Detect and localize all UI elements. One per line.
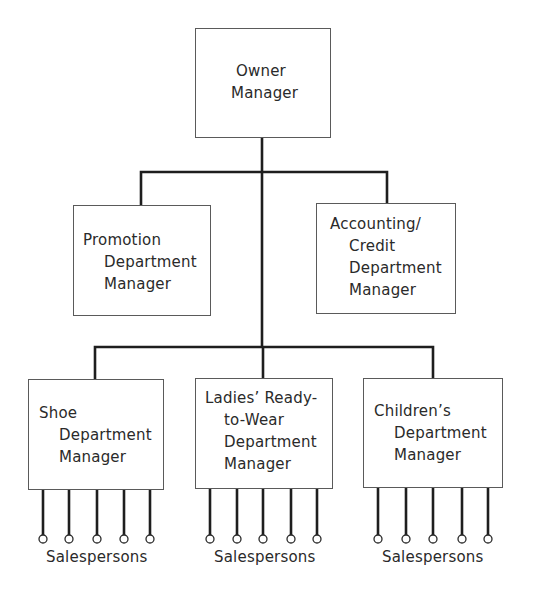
node-label-line: Promotion	[83, 229, 161, 251]
salespersons-label: Salespersons	[382, 548, 484, 566]
shoe-manager-box: Shoe Department Manager	[28, 379, 164, 490]
node-label-line: Manager	[394, 444, 461, 466]
node-label-line: Manager	[59, 446, 126, 468]
owner-manager-box: Owner Manager	[195, 28, 331, 138]
node-label-line: Credit	[349, 235, 395, 257]
node-label-line: Owner	[236, 60, 286, 82]
promotion-manager-box: Promotion Department Manager	[73, 205, 211, 316]
childrens-manager-box: Children’s Department Manager	[363, 378, 503, 488]
node-label-line: Department	[349, 257, 442, 279]
node-label-line: Ladies’ Ready-	[205, 387, 317, 409]
ladies-ready-to-wear-manager-box: Ladies’ Ready- to-Wear Department Manage…	[195, 378, 333, 489]
node-label-line: Children’s	[374, 400, 451, 422]
node-label-line: Manager	[104, 273, 171, 295]
node-label-line: Department	[224, 431, 317, 453]
node-label-line: Accounting/	[330, 213, 421, 235]
node-label-line: Department	[104, 251, 197, 273]
node-label-line: Manager	[349, 279, 416, 301]
salespersons-label: Salespersons	[214, 548, 316, 566]
node-label-line: Manager	[231, 82, 298, 104]
node-label-line: to-Wear	[224, 409, 284, 431]
node-label-line: Shoe	[39, 402, 77, 424]
node-label-line: Manager	[224, 453, 291, 475]
salespersons-label: Salespersons	[46, 548, 148, 566]
node-label-line: Department	[59, 424, 152, 446]
accounting-credit-manager-box: Accounting/ Credit Department Manager	[316, 203, 456, 314]
org-chart: Owner Manager Promotion Department Manag…	[0, 0, 535, 602]
node-label-line: Department	[394, 422, 487, 444]
